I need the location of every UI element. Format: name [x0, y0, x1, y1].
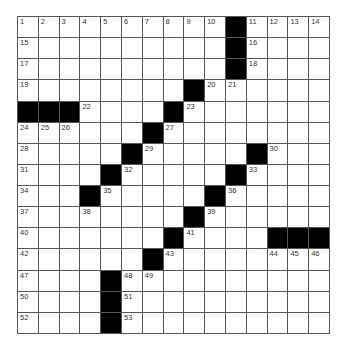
crossword-cell[interactable] [268, 186, 289, 207]
crossword-cell[interactable] [309, 102, 330, 123]
crossword-cell[interactable]: 3 [60, 17, 81, 38]
crossword-cell[interactable] [205, 165, 226, 186]
crossword-cell[interactable] [39, 186, 60, 207]
crossword-cell[interactable] [309, 186, 330, 207]
crossword-cell[interactable] [143, 102, 164, 123]
crossword-cell[interactable] [247, 207, 268, 228]
crossword-cell[interactable] [80, 228, 101, 249]
crossword-cell[interactable] [39, 144, 60, 165]
crossword-cell[interactable] [60, 271, 81, 292]
crossword-cell[interactable]: 37 [18, 207, 39, 228]
crossword-cell[interactable] [205, 292, 226, 313]
crossword-cell[interactable] [268, 80, 289, 101]
crossword-cell[interactable] [143, 38, 164, 59]
crossword-cell[interactable] [143, 292, 164, 313]
crossword-cell[interactable] [164, 165, 185, 186]
crossword-cell[interactable] [60, 144, 81, 165]
crossword-cell[interactable]: 51 [122, 292, 143, 313]
crossword-cell[interactable]: 34 [18, 186, 39, 207]
crossword-cell[interactable] [288, 313, 309, 334]
crossword-cell[interactable] [80, 313, 101, 334]
crossword-cell[interactable]: 32 [122, 165, 143, 186]
crossword-cell[interactable]: 52 [18, 313, 39, 334]
crossword-cell[interactable] [288, 38, 309, 59]
crossword-cell[interactable] [122, 38, 143, 59]
crossword-cell[interactable] [60, 59, 81, 80]
crossword-cell[interactable] [122, 59, 143, 80]
crossword-cell[interactable] [184, 186, 205, 207]
crossword-cell[interactable]: 2 [39, 17, 60, 38]
crossword-cell[interactable] [184, 165, 205, 186]
crossword-cell[interactable]: 22 [80, 102, 101, 123]
crossword-cell[interactable] [226, 123, 247, 144]
crossword-cell[interactable] [39, 313, 60, 334]
crossword-cell[interactable] [205, 144, 226, 165]
crossword-cell[interactable] [205, 228, 226, 249]
crossword-cell[interactable] [184, 313, 205, 334]
crossword-cell[interactable] [247, 186, 268, 207]
crossword-cell[interactable] [101, 144, 122, 165]
crossword-cell[interactable] [101, 207, 122, 228]
crossword-cell[interactable] [247, 102, 268, 123]
crossword-cell[interactable] [143, 207, 164, 228]
crossword-cell[interactable]: 19 [18, 80, 39, 101]
crossword-cell[interactable] [143, 228, 164, 249]
crossword-cell[interactable]: 50 [18, 292, 39, 313]
crossword-cell[interactable]: 41 [184, 228, 205, 249]
crossword-cell[interactable] [226, 249, 247, 270]
crossword-cell[interactable] [80, 249, 101, 270]
crossword-cell[interactable] [288, 80, 309, 101]
crossword-cell[interactable]: 46 [309, 249, 330, 270]
crossword-cell[interactable] [247, 292, 268, 313]
crossword-cell[interactable] [164, 80, 185, 101]
crossword-cell[interactable] [184, 123, 205, 144]
crossword-cell[interactable]: 43 [164, 249, 185, 270]
crossword-cell[interactable] [288, 207, 309, 228]
crossword-cell[interactable]: 28 [18, 144, 39, 165]
crossword-cell[interactable] [288, 165, 309, 186]
crossword-cell[interactable] [268, 313, 289, 334]
crossword-cell[interactable]: 47 [18, 271, 39, 292]
crossword-cell[interactable] [309, 59, 330, 80]
crossword-cell[interactable] [268, 102, 289, 123]
crossword-cell[interactable]: 30 [268, 144, 289, 165]
crossword-cell[interactable]: 5 [101, 17, 122, 38]
crossword-cell[interactable] [60, 207, 81, 228]
crossword-cell[interactable]: 31 [18, 165, 39, 186]
crossword-cell[interactable] [247, 80, 268, 101]
crossword-cell[interactable]: 45 [288, 249, 309, 270]
crossword-cell[interactable] [288, 186, 309, 207]
crossword-cell[interactable] [60, 249, 81, 270]
crossword-cell[interactable] [60, 80, 81, 101]
crossword-cell[interactable] [205, 59, 226, 80]
crossword-cell[interactable] [39, 38, 60, 59]
crossword-cell[interactable] [122, 186, 143, 207]
crossword-cell[interactable] [80, 292, 101, 313]
crossword-cell[interactable]: 20 [205, 80, 226, 101]
crossword-cell[interactable] [122, 249, 143, 270]
crossword-cell[interactable] [184, 38, 205, 59]
crossword-cell[interactable] [226, 102, 247, 123]
crossword-cell[interactable] [60, 313, 81, 334]
crossword-cell[interactable] [268, 38, 289, 59]
crossword-cell[interactable] [268, 59, 289, 80]
crossword-cell[interactable] [122, 123, 143, 144]
crossword-cell[interactable] [226, 228, 247, 249]
crossword-cell[interactable]: 49 [143, 271, 164, 292]
crossword-cell[interactable] [226, 313, 247, 334]
crossword-cell[interactable] [288, 59, 309, 80]
crossword-cell[interactable] [247, 271, 268, 292]
crossword-cell[interactable]: 27 [164, 123, 185, 144]
crossword-cell[interactable] [39, 80, 60, 101]
crossword-cell[interactable] [268, 165, 289, 186]
crossword-cell[interactable] [309, 144, 330, 165]
crossword-cell[interactable] [205, 102, 226, 123]
crossword-cell[interactable] [101, 59, 122, 80]
crossword-cell[interactable]: 1 [18, 17, 39, 38]
crossword-cell[interactable] [184, 59, 205, 80]
crossword-cell[interactable]: 23 [184, 102, 205, 123]
crossword-cell[interactable] [60, 292, 81, 313]
crossword-cell[interactable] [288, 102, 309, 123]
crossword-cell[interactable] [226, 292, 247, 313]
crossword-cell[interactable]: 38 [80, 207, 101, 228]
